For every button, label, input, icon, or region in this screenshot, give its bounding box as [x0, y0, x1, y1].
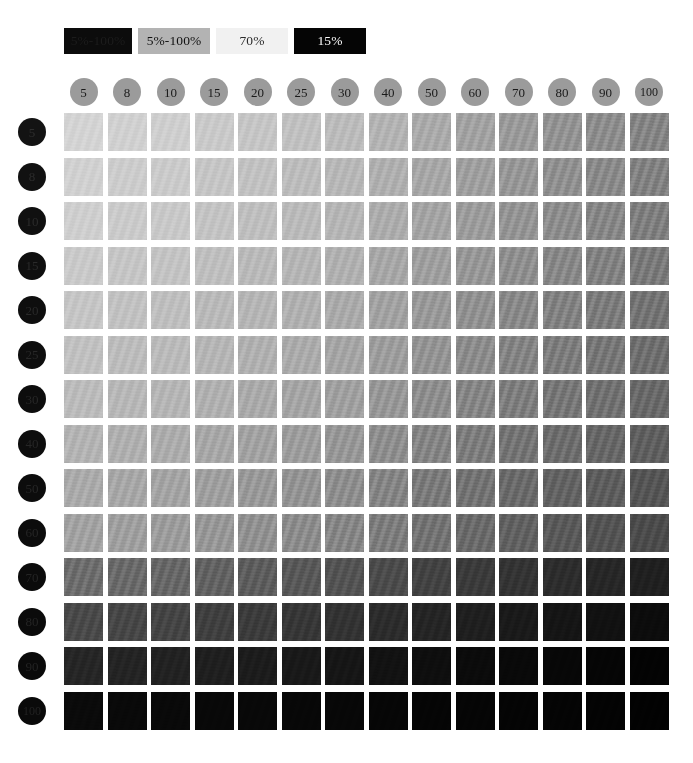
tint-patch: [456, 202, 495, 240]
row-header-50[interactable]: 50: [18, 474, 46, 502]
tint-patch: [412, 247, 451, 285]
tint-patch: [412, 291, 451, 329]
tint-patch: [630, 469, 669, 507]
tint-patch: [238, 291, 277, 329]
column-header-80[interactable]: 80: [548, 78, 576, 106]
column-header-20[interactable]: 20: [244, 78, 272, 106]
tint-patch: [412, 514, 451, 552]
tint-patch: [586, 291, 625, 329]
row-header-30[interactable]: 30: [18, 385, 46, 413]
tint-patch: [412, 380, 451, 418]
column-header-5[interactable]: 5: [70, 78, 98, 106]
tint-patch: [151, 558, 190, 596]
tint-patch: [151, 647, 190, 685]
column-header-70[interactable]: 70: [505, 78, 533, 106]
tint-patch: [630, 692, 669, 730]
column-header-30[interactable]: 30: [331, 78, 359, 106]
tint-patch: [543, 692, 582, 730]
tint-patch: [195, 603, 234, 641]
tint-patch: [325, 558, 364, 596]
tint-patch: [456, 469, 495, 507]
tint-patch: [499, 692, 538, 730]
column-header-40[interactable]: 40: [374, 78, 402, 106]
tint-patch: [499, 647, 538, 685]
row-header-25[interactable]: 25: [18, 341, 46, 369]
tint-patch: [499, 291, 538, 329]
row-header-80[interactable]: 80: [18, 608, 46, 636]
tint-patch: [64, 336, 103, 374]
tint-patch: [325, 202, 364, 240]
row-header-90[interactable]: 90: [18, 652, 46, 680]
tint-patch: [456, 647, 495, 685]
tint-patch: [543, 514, 582, 552]
column-header-25[interactable]: 25: [287, 78, 315, 106]
tint-patch: [586, 202, 625, 240]
legend-swatch-3: 15%: [294, 28, 366, 54]
tint-patch: [108, 202, 147, 240]
column-header-100[interactable]: 100: [635, 78, 663, 106]
tint-patch: [238, 514, 277, 552]
tint-patch: [151, 291, 190, 329]
column-header-10[interactable]: 10: [157, 78, 185, 106]
row-header-15[interactable]: 15: [18, 252, 46, 280]
tint-patch: [64, 692, 103, 730]
column-header-50[interactable]: 50: [418, 78, 446, 106]
tint-patch: [369, 291, 408, 329]
tint-patch: [64, 291, 103, 329]
tint-patch: [412, 603, 451, 641]
tint-patch: [282, 603, 321, 641]
tint-patch: [151, 247, 190, 285]
tint-patch: [499, 514, 538, 552]
tint-patch: [325, 425, 364, 463]
tint-patch: [238, 380, 277, 418]
tint-patch: [543, 158, 582, 196]
tint-patch: [456, 247, 495, 285]
tint-patch: [151, 202, 190, 240]
tint-patch: [108, 647, 147, 685]
column-header-90[interactable]: 90: [592, 78, 620, 106]
row-header-20[interactable]: 20: [18, 296, 46, 324]
tint-patch: [412, 692, 451, 730]
column-header-15[interactable]: 15: [200, 78, 228, 106]
tint-patch: [456, 113, 495, 151]
tint-patch: [282, 380, 321, 418]
tint-patch: [369, 692, 408, 730]
tint-patch: [151, 514, 190, 552]
column-header-60[interactable]: 60: [461, 78, 489, 106]
tint-patch: [325, 158, 364, 196]
row-header-100[interactable]: 100: [18, 697, 46, 725]
tint-patch: [151, 425, 190, 463]
row-header-5[interactable]: 5: [18, 118, 46, 146]
tint-patch: [195, 647, 234, 685]
tint-patch: [64, 647, 103, 685]
tint-patch: [64, 158, 103, 196]
tint-patch: [369, 603, 408, 641]
tint-patch: [195, 380, 234, 418]
tint-patch: [151, 158, 190, 196]
row-header-8[interactable]: 8: [18, 163, 46, 191]
row-header-40[interactable]: 40: [18, 430, 46, 458]
row-header-60[interactable]: 60: [18, 519, 46, 547]
tint-patch: [282, 469, 321, 507]
tint-patch: [369, 202, 408, 240]
tint-patch: [195, 158, 234, 196]
tint-patch: [195, 469, 234, 507]
tint-patch: [108, 692, 147, 730]
tint-patch: [630, 336, 669, 374]
tint-patch: [456, 558, 495, 596]
tint-patch: [238, 469, 277, 507]
tint-patch: [108, 514, 147, 552]
tint-patch: [108, 158, 147, 196]
tint-patch: [64, 380, 103, 418]
column-header-8[interactable]: 8: [113, 78, 141, 106]
tint-patch: [151, 380, 190, 418]
tint-patch: [151, 336, 190, 374]
row-header-70[interactable]: 70: [18, 563, 46, 591]
tint-patch: [64, 558, 103, 596]
tint-patch: [238, 247, 277, 285]
tint-patch: [195, 425, 234, 463]
row-header-10[interactable]: 10: [18, 207, 46, 235]
tint-patch: [630, 380, 669, 418]
tint-patch: [108, 247, 147, 285]
tint-patch: [543, 603, 582, 641]
